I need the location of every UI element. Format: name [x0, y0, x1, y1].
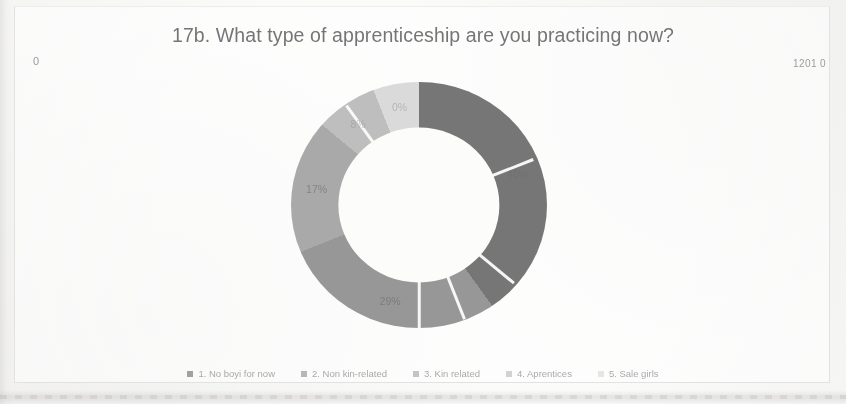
legend-label: 3. Kin related — [424, 368, 480, 379]
legend-swatch-icon — [506, 371, 512, 377]
doughnut-center-hole — [338, 128, 499, 283]
slice-label-1: 40% — [507, 168, 528, 180]
legend-label: 4. Aprentices — [517, 368, 572, 379]
chart-legend: 1. No boyi for now2. Non kin-related3. K… — [0, 368, 846, 379]
legend-swatch-icon — [301, 371, 307, 377]
legend-item-4[interactable]: 4. Aprentices — [506, 368, 572, 379]
slice-label-3: 17% — [306, 183, 327, 195]
legend-swatch-icon — [413, 371, 419, 377]
legend-swatch-icon — [187, 371, 193, 377]
legend-label: 2. Non kin-related — [312, 368, 387, 379]
slice-label-2: 29% — [380, 295, 401, 307]
legend-item-5[interactable]: 5. Sale girls — [598, 368, 659, 379]
legend-item-2[interactable]: 2. Non kin-related — [301, 368, 387, 379]
legend-swatch-icon — [598, 371, 604, 377]
chart-title: 17b. What type of apprenticeship are you… — [0, 24, 846, 47]
legend-label: 1. No boyi for now — [198, 368, 275, 379]
legend-label: 5. Sale girls — [609, 368, 659, 379]
doughnut-chart: 40%29%17%8%0% — [291, 82, 547, 328]
legend-item-1[interactable]: 1. No boyi for now — [187, 368, 275, 379]
slice-label-4: 8% — [350, 118, 365, 130]
legend-item-3[interactable]: 3. Kin related — [413, 368, 480, 379]
corner-label-right: 1201 0 — [793, 58, 826, 69]
page-bottom-edge — [0, 390, 846, 404]
slice-label-5: 0% — [392, 101, 407, 113]
scan-gutter-shadow — [0, 0, 12, 404]
corner-label-left: 0 — [33, 55, 39, 67]
